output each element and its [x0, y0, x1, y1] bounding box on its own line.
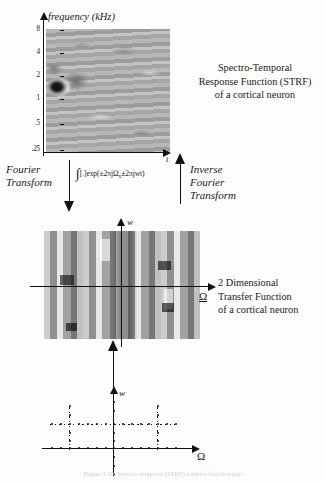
lattice-to-transfer-arrow-icon: [108, 340, 118, 351]
lattice-w-arrow-icon: [110, 386, 118, 394]
inverse-fourier-line-3: Transform: [190, 189, 270, 202]
transfer-caption-line-1: 2 Dimensional: [218, 276, 326, 290]
strf-time-axis-line: [43, 152, 165, 153]
inverse-fourier-transform-label: Inverse Fourier Transform: [190, 163, 270, 203]
transfer-function-omega-arrow-icon: [208, 283, 216, 291]
strf-heatmap-panel: [46, 29, 170, 152]
strf-caption-line-3: of a cortical neuron: [186, 88, 324, 102]
strf-frequency-axis-arrow-icon: [40, 12, 48, 20]
strf-y-tick-1: 4: [24, 49, 40, 56]
transfer-function-omega-label: Ω: [199, 290, 207, 302]
lattice-rail-v-left: [69, 404, 70, 450]
strf-caption-line-2: Response Function (STRF): [186, 75, 324, 89]
strf-y-tick-4: .5: [24, 120, 40, 127]
strf-y-tick-0: 8: [24, 26, 40, 33]
fourier-transform-label: Fourier Transform: [6, 163, 78, 189]
inverse-fourier-up-arrow-icon: [175, 153, 185, 164]
fourier-transform-line-1: Fourier: [6, 163, 78, 176]
transfer-caption-line-2: Transfer Function: [218, 290, 326, 304]
formula-suffix: ±2πjwt): [121, 169, 144, 178]
fourier-transform-line-2: Transform: [6, 176, 78, 189]
lattice-to-transfer-arrow-shaft: [113, 348, 114, 388]
strf-heatmap-image: [46, 29, 170, 152]
sampling-lattice-diagram: w Ω: [34, 386, 214, 478]
lattice-omega-label: Ω: [197, 450, 205, 462]
lattice-rail-v-right: [157, 404, 158, 450]
transfer-function-w-label: w: [127, 217, 133, 227]
inverse-fourier-arrow-shaft: [180, 162, 181, 204]
strf-y-tick-5: .25: [24, 146, 40, 153]
transfer-caption-line-3: of a cortical neuron: [218, 303, 326, 317]
strf-caption-line-1: Spectro-Temporal: [186, 61, 324, 75]
lattice-omega-axis-line: [42, 448, 194, 449]
transfer-function-w-arrow-icon: [117, 218, 125, 226]
formula-prefix: [.]exp(±2πjΩ: [80, 169, 119, 178]
fourier-down-arrow-icon: [64, 201, 74, 212]
strf-caption: Spectro-Temporal Response Function (STRF…: [186, 61, 324, 102]
inverse-fourier-line-1: Inverse: [190, 163, 270, 176]
strf-y-tick-2: 2: [24, 72, 40, 79]
strf-time-axis-title: t: [166, 154, 168, 164]
figure-page: frequency (kHz) t 8 4 2 1 .5 .25 Spectro…: [0, 0, 326, 484]
lattice-w-label: w: [119, 388, 125, 398]
transfer-function-omega-axis-line: [30, 286, 210, 287]
strf-y-tick-3: 1: [24, 95, 40, 102]
strf-frequency-axis-line: [43, 16, 44, 156]
fourier-integral-formula: ∫[.]exp(±2πjΩx±2πjwt): [76, 166, 145, 182]
fourier-arrow-shaft: [69, 160, 70, 204]
strf-y-tick-labels: 8 4 2 1 .5 .25: [20, 0, 40, 160]
transfer-function-caption: 2 Dimensional Transfer Function of a cor…: [218, 276, 326, 317]
strf-frequency-axis-title: frequency (kHz): [48, 11, 115, 22]
figure-bottom-caption: Figure 2.10: Spectro-temporal (STRF) tra…: [0, 470, 326, 477]
inverse-fourier-line-2: Fourier: [190, 176, 270, 189]
